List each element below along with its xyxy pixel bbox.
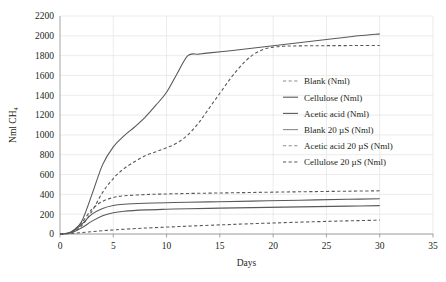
legend: Blank (Nml)Cellulose (Nml)Acetic acid (N…	[283, 76, 393, 167]
y-tick-label: 1000	[35, 130, 54, 140]
x-tick-label: 25	[322, 241, 332, 251]
y-tick-label: 600	[40, 170, 55, 180]
x-tick-label: 15	[215, 241, 225, 251]
x-tick-label: 30	[375, 241, 385, 251]
y-axis-title: Nml CH₄	[8, 107, 18, 143]
legend-label-1: Blank (Nml)	[304, 76, 350, 86]
y-tick-label: 200	[40, 210, 55, 220]
chart-container: 0200400600800100012001400160018002000220…	[0, 0, 446, 282]
x-tick-label: 5	[111, 241, 116, 251]
x-tick-label: 10	[162, 241, 172, 251]
y-tick-label: 0	[49, 229, 54, 239]
legend-label-2: Cellulose (Nml)	[304, 93, 362, 103]
legend-label-6: Cellulose 20 µS (Nml)	[304, 157, 386, 167]
legend-label-3: Acetic acid (Nml)	[304, 109, 369, 119]
x-tick-label: 35	[428, 241, 438, 251]
x-tick-label: 20	[268, 241, 278, 251]
x-tick-label: 0	[58, 241, 63, 251]
line-chart: 0200400600800100012001400160018002000220…	[0, 0, 446, 282]
y-tick-label: 1400	[35, 91, 54, 101]
y-tick-label: 1800	[35, 51, 54, 61]
y-tick-label: 400	[40, 190, 55, 200]
x-axis-title: Days	[237, 258, 257, 268]
y-tick-label: 2200	[35, 11, 54, 21]
legend-label-4: Blank 20 µS (Nml)	[304, 125, 373, 135]
y-tick-label: 2000	[35, 31, 54, 41]
y-tick-label: 800	[40, 150, 55, 160]
y-tick-label: 1600	[35, 71, 54, 81]
legend-label-5: Acetic acid 20 µS (Nml)	[304, 141, 393, 151]
y-tick-label: 1200	[35, 110, 54, 120]
